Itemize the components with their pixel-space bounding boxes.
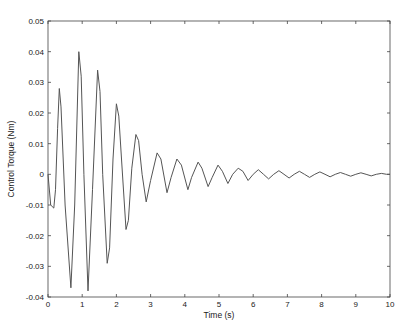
x-tick-label: 7 (285, 300, 290, 309)
y-tick-label: -0.03 (26, 262, 45, 271)
x-tick-label: 3 (148, 300, 153, 309)
y-tick-label: 0.05 (28, 17, 44, 26)
x-tick-label: 1 (80, 300, 85, 309)
y-axis-label: Control Torque (Nm) (6, 120, 16, 197)
y-tick-label: -0.01 (26, 201, 45, 210)
x-tick-label: 8 (319, 300, 324, 309)
x-tick-label: 6 (251, 300, 256, 309)
x-tick-label: 4 (183, 300, 188, 309)
y-tick-label: -0.04 (26, 293, 45, 302)
y-tick-label: 0.02 (28, 109, 44, 118)
plot-frame (48, 21, 390, 297)
x-axis-label: Time (s) (204, 310, 235, 320)
y-axis: -0.04-0.03-0.02-0.0100.010.020.030.040.0… (26, 17, 390, 302)
data-series-line (48, 52, 390, 291)
y-tick-label: 0.03 (28, 78, 44, 87)
x-tick-label: 5 (217, 300, 222, 309)
line-chart: 012345678910 -0.04-0.03-0.02-0.0100.010.… (0, 0, 410, 333)
x-tick-label: 9 (354, 300, 359, 309)
y-tick-label: 0 (40, 170, 45, 179)
x-axis: 012345678910 (46, 21, 395, 309)
x-tick-label: 10 (386, 300, 395, 309)
y-tick-label: 0.01 (28, 140, 44, 149)
x-tick-label: 0 (46, 300, 51, 309)
x-tick-label: 2 (114, 300, 119, 309)
y-tick-label: -0.02 (26, 232, 45, 241)
y-tick-label: 0.04 (28, 48, 44, 57)
